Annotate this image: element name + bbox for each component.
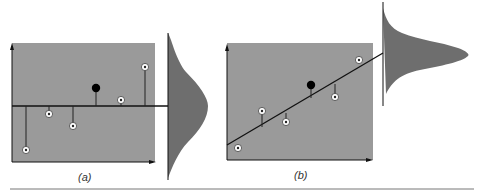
panel-a-label: (a) xyxy=(78,171,91,183)
data-point-b-3 xyxy=(282,118,289,125)
data-point-a-3 xyxy=(69,122,76,129)
data-point-b-5 xyxy=(355,56,362,63)
data-point-b-4 xyxy=(331,93,338,100)
mean-point-a xyxy=(92,84,100,92)
data-point-a-4 xyxy=(117,96,124,103)
data-point-b-2 xyxy=(258,107,265,114)
data-point-a-2 xyxy=(45,110,52,117)
data-point-b-1 xyxy=(234,144,241,151)
panel-a xyxy=(10,33,208,180)
data-point-a-1 xyxy=(22,146,29,153)
panel-b-label: (b) xyxy=(294,169,307,181)
distribution-curve-b xyxy=(383,8,469,94)
distribution-curve-a xyxy=(168,33,208,178)
data-point-a-5 xyxy=(141,63,148,70)
mean-point-b xyxy=(307,81,315,89)
plot-area-a xyxy=(12,43,155,162)
panel-b xyxy=(225,2,469,162)
regression-diagram xyxy=(0,0,480,196)
